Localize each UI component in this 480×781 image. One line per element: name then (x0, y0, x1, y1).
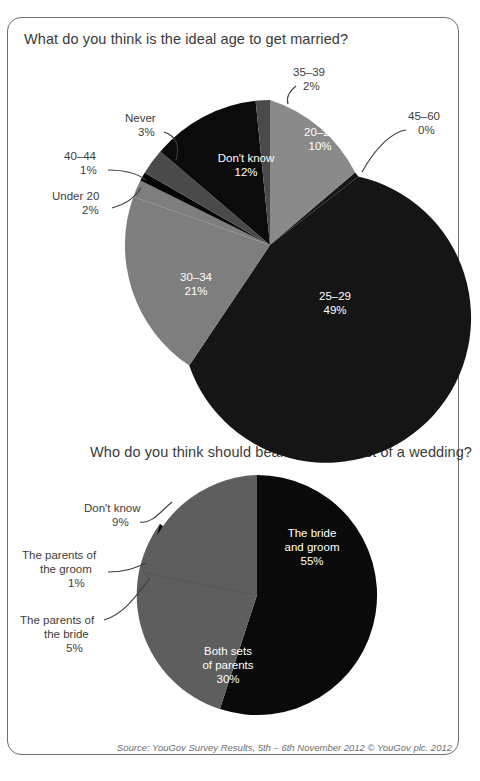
pie2-label-bride-groom-pct: 55% (300, 555, 323, 567)
pie1-leader-35-39 (287, 86, 296, 104)
pie1-label-under-20-pct: 2% (82, 204, 99, 216)
pie2-label-both-parents-l1: Both sets (204, 645, 252, 657)
pie2-label-dont-know-l1: Don't know (84, 502, 141, 514)
pie2-label-both-parents-l2: of parents (202, 659, 253, 671)
pie1-label-dont-know-pct: 12% (234, 166, 257, 178)
pie1-label-35-39-name: 35–39 (293, 66, 325, 78)
charts-container: 20–24 10% 25–29 49% 30–34 21% Don't know… (0, 0, 480, 781)
pie1-label-35-39-pct: 2% (303, 80, 320, 92)
pie1-label-25-29-name: 25–29 (319, 290, 351, 302)
pie1-label-never-pct: 3% (138, 126, 155, 138)
pie2-label-parents-groom-l1: The parents of (22, 549, 97, 561)
pie1-label-30-34-name: 30–34 (180, 271, 213, 283)
pie2-label-parents-bride-l2: the bride (44, 628, 89, 640)
pie1-leader-40-44 (108, 170, 146, 180)
pie2-label-bride-groom-l1: The bride (288, 527, 337, 539)
pie1-label-45-60-pct: 0% (418, 124, 435, 136)
pie2-label-bride-groom-l2: and groom (285, 541, 340, 553)
pie1-label-dont-know-name: Don't know (218, 152, 275, 164)
pie1-label-under-20-name: Under 20 (52, 190, 99, 202)
pie1-label-40-44-pct: 1% (80, 164, 97, 176)
pie-chart-2-slices (137, 475, 377, 715)
pie2-label-parents-groom-pct: 1% (68, 577, 85, 589)
pie1-label-40-44-name: 40–44 (64, 150, 97, 162)
pie1-label-45-60-name: 45–60 (408, 110, 440, 122)
pie1-label-20-24-name: 20–24 (304, 126, 337, 138)
pie2-label-both-parents-pct: 30% (216, 673, 239, 685)
pie2-label-parents-bride-l1: The parents of (20, 614, 95, 626)
pie2-label-dont-know-pct: 9% (112, 516, 129, 528)
pie1-label-never-name: Never (125, 112, 156, 124)
pie1-label-30-34-pct: 21% (184, 285, 207, 297)
pie2-label-parents-groom-l2: the groom (40, 563, 92, 575)
pie2-label-parents-bride-pct: 5% (66, 642, 83, 654)
pie1-leader-45-60 (362, 130, 406, 172)
pie2-leader-dont-know (140, 502, 172, 522)
pie-charts-svg: 20–24 10% 25–29 49% 30–34 21% Don't know… (0, 0, 480, 781)
source-note: Source: YouGov Survey Results, 5th – 6th… (117, 742, 452, 753)
pie1-label-20-24-pct: 10% (308, 140, 331, 152)
pie1-label-25-29-pct: 49% (323, 304, 346, 316)
